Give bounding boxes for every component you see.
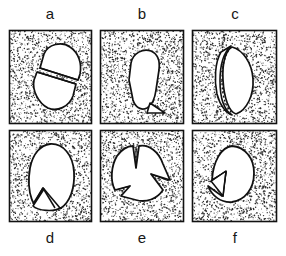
panel-f: [192, 131, 276, 222]
panel-e: [100, 130, 183, 221]
panel-a: [9, 30, 91, 123]
panel-d: [9, 130, 91, 221]
panel-c: [193, 30, 277, 123]
figure-panel-grid: a b c d e f: [0, 0, 286, 256]
panel-b: [101, 30, 184, 123]
figure-canvas: [0, 0, 286, 256]
